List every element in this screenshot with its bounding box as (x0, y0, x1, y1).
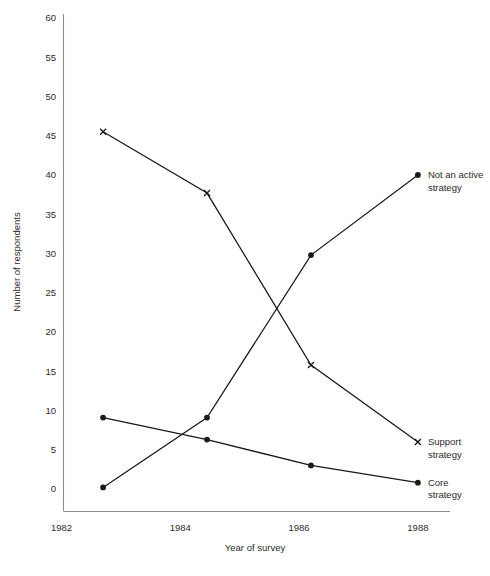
y-tick-label: 30 (45, 248, 56, 259)
y-tick-label: 55 (45, 52, 56, 63)
y-tick-label: 45 (45, 130, 56, 141)
x-axis-title: Year of survey (225, 542, 286, 553)
series-line-not-an-active-strategy (103, 175, 418, 487)
series-line-core-strategy (103, 418, 418, 483)
y-tick-label: 40 (45, 169, 56, 180)
series-label-not-an-active-strategy: strategy (428, 182, 462, 193)
marker-dot (204, 415, 210, 421)
series-label-not-an-active-strategy: Not an active (428, 169, 483, 180)
marker-cross (204, 190, 210, 196)
y-tick-label: 10 (45, 405, 56, 416)
line-chart: 051015202530354045505560 198219841986198… (0, 0, 490, 576)
marker-dot (308, 252, 314, 258)
y-tick-label: 5 (51, 444, 56, 455)
x-tick-label: 1984 (170, 522, 191, 533)
marker-cross (100, 129, 106, 135)
y-axis-tick-labels: 051015202530354045505560 (45, 12, 56, 494)
marker-dot (100, 485, 106, 491)
y-tick-label: 35 (45, 209, 56, 220)
marker-dot (204, 437, 210, 443)
x-tick-label: 1982 (51, 522, 72, 533)
series-paths (103, 132, 418, 488)
series-inline-labels: SupportstrategyNot an activestrategyCore… (428, 169, 483, 500)
y-tick-label: 25 (45, 287, 56, 298)
series-line-support-strategy (103, 132, 418, 442)
marker-cross (308, 362, 314, 368)
marker-dot (415, 480, 421, 486)
y-tick-label: 50 (45, 91, 56, 102)
series-label-core-strategy: strategy (428, 489, 462, 500)
y-tick-label: 20 (45, 326, 56, 337)
chart-container: 051015202530354045505560 198219841986198… (0, 0, 490, 576)
y-tick-label: 60 (45, 12, 56, 23)
y-tick-label: 15 (45, 366, 56, 377)
x-axis-tick-labels: 1982198419861988 (51, 522, 429, 533)
series-label-support-strategy: Support (428, 436, 462, 447)
series-markers (100, 129, 421, 491)
y-tick-label: 0 (51, 483, 56, 494)
series-label-core-strategy: Core (428, 477, 449, 488)
marker-dot (415, 172, 421, 178)
x-tick-label: 1986 (289, 522, 310, 533)
marker-cross (415, 439, 421, 445)
x-tick-label: 1988 (407, 522, 428, 533)
y-axis-title: Number of respondents (11, 212, 22, 312)
series-label-support-strategy: strategy (428, 449, 462, 460)
marker-dot (100, 415, 106, 421)
marker-dot (308, 463, 314, 469)
